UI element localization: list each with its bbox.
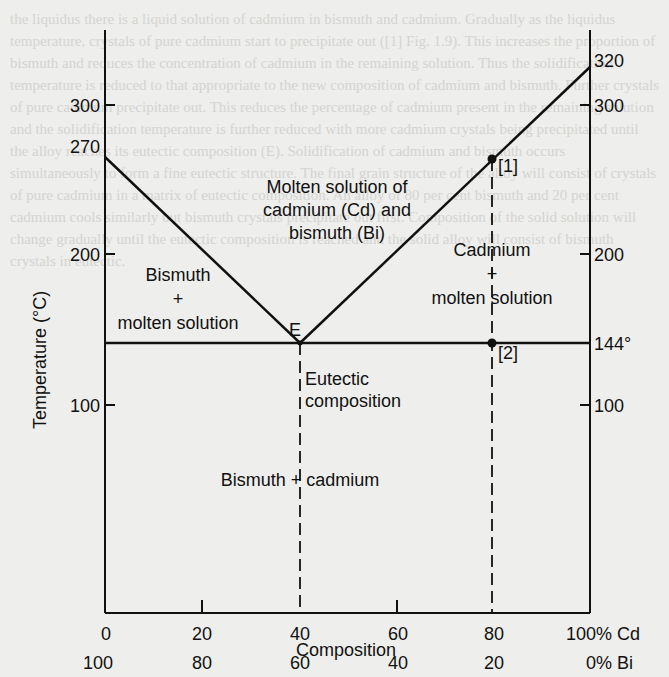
point-1-label: [1] <box>498 156 518 176</box>
x-tick-bi-20: 20 <box>484 653 504 673</box>
point-1 <box>488 155 497 164</box>
x-tick-bi-0: 0% Bi <box>586 653 633 673</box>
phase-diagram: 300 270 200 100 320 300 200 144° 100 Tem… <box>0 0 669 677</box>
x-tick-cd-20: 20 <box>192 624 212 644</box>
y-tick-left-200: 200 <box>70 245 100 265</box>
point-E <box>298 341 303 346</box>
point-2-label: [2] <box>498 343 518 363</box>
x-tick-cd-80: 80 <box>484 624 504 644</box>
eutectic-label-line1: Eutectic <box>305 369 369 389</box>
eutectic-label-line2: composition <box>305 391 401 411</box>
y-tick-right-200: 200 <box>594 245 624 265</box>
region-cadmium-line3: molten solution <box>431 288 552 308</box>
x-tick-bi-80: 80 <box>192 653 212 673</box>
point-E-label: E <box>289 320 301 340</box>
y-tick-left-300: 300 <box>70 96 100 116</box>
y-tick-right-320: 320 <box>594 51 624 71</box>
x-tick-cd-100: 100% Cd <box>566 624 640 644</box>
region-molten-line3: bismuth (Bi) <box>289 223 385 243</box>
x-tick-bi-100: 100 <box>83 653 113 673</box>
y-tick-left-100: 100 <box>70 396 100 416</box>
y-tick-right-300: 300 <box>594 96 624 116</box>
region-bismuth-line1: Bismuth <box>145 265 210 285</box>
region-bismuth-line3: molten solution <box>117 313 238 333</box>
x-tick-cd-0: 0 <box>101 624 111 644</box>
region-molten-line2: cadmium (Cd) and <box>263 200 411 220</box>
region-cadmium-line1: Cadmium <box>453 240 530 260</box>
y-tick-right-144: 144° <box>594 334 631 354</box>
region-cadmium-plus: + <box>487 264 498 284</box>
y-tick-left-270: 270 <box>70 137 100 157</box>
y-axis-label: Temperature (°C) <box>30 291 50 429</box>
region-bismuth-cadmium: Bismuth + cadmium <box>221 470 380 490</box>
x-axis-label: Composition <box>296 640 396 660</box>
region-bismuth-plus: + <box>173 289 184 309</box>
point-2 <box>488 339 497 348</box>
y-tick-right-100: 100 <box>594 396 624 416</box>
region-molten-line1: Molten solution of <box>266 177 408 197</box>
